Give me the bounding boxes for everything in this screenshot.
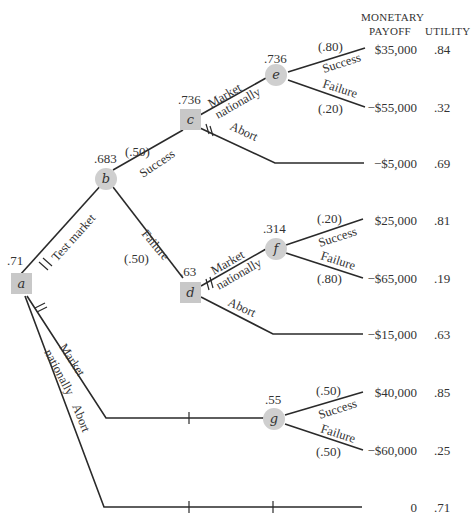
svg-text:a: a [18,276,26,291]
outcome-row: $35,000 .84 [375,42,451,57]
node-e-value: .736 [264,51,287,66]
svg-text:−$65,000: −$65,000 [367,271,417,286]
edge-d-abort [201,297,363,334]
svg-text:$25,000: $25,000 [375,213,417,228]
node-d[interactable]: d [180,282,201,303]
branch-label-d-abort: Abort [226,295,259,320]
branch-label-e-failure: Failure [321,77,359,101]
svg-text:.85: .85 [434,385,450,400]
outcome-row: $25,000 .81 [375,213,451,228]
svg-text:0: 0 [411,500,418,515]
decision-tree: a .71 b .683 c .736 d .63 e .736 f .314 … [0,0,476,526]
svg-text:.81: .81 [434,213,450,228]
svg-text:.25: .25 [434,443,450,458]
prob-b-success: (.50) [125,144,150,159]
node-a-value: .71 [7,253,23,268]
svg-text:b: b [102,171,110,186]
svg-text:.32: .32 [434,100,450,115]
svg-text:c: c [187,112,195,127]
outcome-row: −$60,000 .25 [367,443,450,458]
outcome-row: −$5,000 .69 [374,156,450,171]
node-e[interactable]: e [265,64,287,86]
svg-text:.63: .63 [434,327,450,342]
node-d-value: .63 [180,264,196,279]
branch-label-e-success: Success [321,50,363,76]
prob-g-success: (.50) [316,383,341,398]
node-f-value: .314 [263,221,286,236]
prob-b-failure: (.50) [124,251,149,266]
node-b[interactable]: b [95,168,117,190]
node-a[interactable]: a [11,273,32,294]
header-utility: UTILITY [425,25,470,37]
svg-text:.71: .71 [434,500,450,515]
svg-text:$35,000: $35,000 [375,42,417,57]
svg-text:.84: .84 [434,42,451,57]
node-g-value: .55 [265,392,281,407]
prob-f-failure: (.80) [317,271,342,286]
svg-text:e: e [272,67,280,82]
svg-text:−$55,000: −$55,000 [367,100,417,115]
outcome-row: −$65,000 .19 [367,271,450,286]
outcome-row: −$55,000 .32 [367,100,450,115]
edge-a-abort [25,296,362,507]
svg-text:−$15,000: −$15,000 [367,327,417,342]
branch-label-test-market: Test market [49,211,99,264]
branch-label-a-abort: Abort [69,402,93,435]
svg-text:.69: .69 [434,156,450,171]
node-c[interactable]: c [180,109,201,130]
edge-c-abort [200,128,364,163]
pruned-marker-c-abort [206,124,213,136]
node-g[interactable]: g [263,408,285,430]
svg-text:−$5,000: −$5,000 [374,156,417,171]
prob-e-success: (.80) [318,39,343,54]
prob-g-failure: (.50) [316,444,341,459]
node-b-value: .683 [94,151,117,166]
svg-text:d: d [186,285,194,300]
pruned-marker-a-test [39,258,52,270]
header-payoff: PAYOFF [369,25,411,37]
svg-text:g: g [270,411,278,426]
outcome-row: −$15,000 .63 [367,327,450,342]
svg-text:$40,000: $40,000 [375,385,417,400]
node-f[interactable]: f [265,238,287,260]
header-monetary: MONETARY [361,11,424,23]
prob-e-failure: (.20) [318,101,343,116]
svg-text:.19: .19 [434,271,450,286]
prob-f-success: (.20) [317,211,342,226]
outcome-row: 0 .71 [411,500,451,515]
node-c-value: .736 [178,92,201,107]
outcome-row: $40,000 .85 [375,385,451,400]
branch-label-c-abort: Abort [228,119,261,144]
svg-text:−$60,000: −$60,000 [367,443,417,458]
